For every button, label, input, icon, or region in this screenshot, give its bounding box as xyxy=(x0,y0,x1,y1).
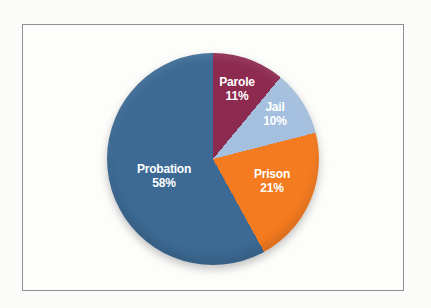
pie-chart: Parole 11% Jail 10% Prison 21% Probation… xyxy=(107,53,319,265)
pie-circle xyxy=(107,53,319,265)
chart-frame: Parole 11% Jail 10% Prison 21% Probation… xyxy=(22,24,404,291)
